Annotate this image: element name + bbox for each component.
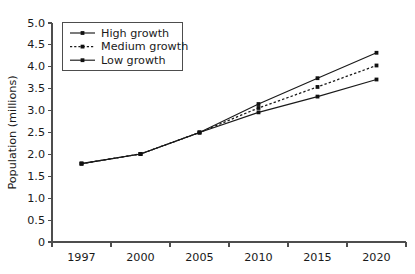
- data-point-marker: [198, 131, 202, 135]
- legend: High growthMedium growthLow growth: [62, 22, 188, 70]
- data-point-marker: [375, 51, 379, 55]
- legend-label: Medium growth: [101, 40, 188, 53]
- legend-label: High growth: [101, 27, 169, 40]
- legend-marker-sample: [81, 45, 85, 49]
- y-tick-label: 2.0: [27, 148, 45, 161]
- data-point-marker: [316, 76, 320, 80]
- series-line-1: [82, 65, 377, 163]
- data-point-marker: [257, 102, 261, 106]
- series-medium-growth: [80, 64, 379, 166]
- x-tick-label: 1997: [67, 251, 95, 264]
- data-point-marker: [375, 78, 379, 82]
- x-tick-label: 2020: [362, 251, 390, 264]
- data-point-marker: [139, 152, 143, 156]
- data-point-marker: [316, 85, 320, 89]
- legend-label: Low growth: [101, 54, 166, 67]
- y-tick-label: 1.5: [27, 170, 45, 183]
- data-point-marker: [257, 106, 261, 110]
- y-tick-label: 0: [38, 236, 45, 249]
- population-projection-chart: 00.51.01.52.02.53.03.54.04.55.0199720002…: [0, 0, 415, 274]
- y-tick-label: 0.5: [27, 214, 45, 227]
- legend-marker-sample: [81, 58, 85, 62]
- y-tick-label: 5.0: [27, 17, 45, 30]
- series-low-growth: [80, 78, 379, 166]
- y-tick-label: 4.5: [27, 38, 45, 51]
- x-tick-label: 2000: [126, 251, 154, 264]
- y-axis-title: Population (millions): [6, 75, 19, 189]
- x-tick-label: 2015: [303, 251, 331, 264]
- y-tick-label: 1.0: [27, 192, 45, 205]
- data-point-marker: [375, 64, 379, 68]
- series-line-2: [82, 80, 377, 164]
- data-point-marker: [80, 162, 84, 166]
- x-tick-label: 2010: [244, 251, 272, 264]
- y-tick-label: 3.0: [27, 104, 45, 117]
- legend-marker-sample: [81, 31, 85, 35]
- chart-canvas: 00.51.01.52.02.53.03.54.04.55.0199720002…: [0, 0, 415, 274]
- data-point-marker: [257, 110, 261, 114]
- y-tick-label: 2.5: [27, 126, 45, 139]
- y-tick-label: 4.0: [27, 60, 45, 73]
- x-tick-label: 2005: [185, 251, 213, 264]
- data-point-marker: [316, 95, 320, 99]
- y-tick-label: 3.5: [27, 82, 45, 95]
